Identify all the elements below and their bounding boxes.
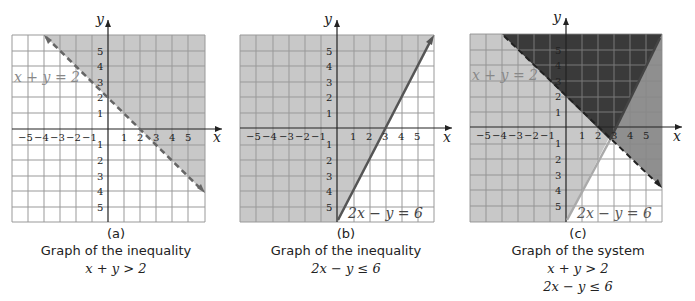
- svg-text:4: 4: [398, 131, 404, 142]
- svg-text:2: 2: [326, 92, 332, 103]
- svg-text:−3: −3: [508, 130, 523, 141]
- line-label: x + y = 2: [14, 69, 80, 85]
- caption-title: Graph of the inequality: [0, 243, 232, 258]
- svg-text:−4: −4: [262, 131, 277, 142]
- svg-text:5: 5: [326, 202, 332, 213]
- svg-text:−1: −1: [82, 132, 97, 143]
- svg-text:5: 5: [97, 46, 103, 57]
- caption-equation-2: 2x − y ≤ 6: [462, 279, 694, 294]
- svg-text:5: 5: [643, 130, 649, 141]
- y-axis-label: y: [552, 9, 562, 25]
- graph-c: −5−4−3−2−1 12345 54321 12345 x y x + y =…: [462, 0, 695, 226]
- svg-text:−4: −4: [34, 132, 49, 143]
- svg-text:5: 5: [555, 45, 561, 56]
- panel-b: −5−4−3−2−1 12345 54321 12345 x y 2x − y …: [230, 0, 462, 301]
- svg-text:5: 5: [555, 201, 561, 212]
- svg-text:−3: −3: [279, 131, 294, 142]
- y-arrow-icon: [563, 18, 569, 25]
- panel-a: −5−4−3−2−1 12345 54321 12345 x y x + y =…: [0, 0, 232, 301]
- svg-text:−4: −4: [492, 130, 507, 141]
- svg-text:2: 2: [326, 155, 332, 166]
- svg-text:−1: −1: [311, 131, 326, 142]
- caption-equation-1: x + y > 2: [462, 261, 694, 276]
- svg-text:3: 3: [97, 171, 103, 182]
- svg-text:4: 4: [555, 185, 561, 196]
- svg-text:4: 4: [97, 186, 103, 197]
- graph-a: −5−4−3−2−1 12345 54321 12345 x y x + y =…: [0, 0, 232, 226]
- caption-title: Graph of the system: [462, 243, 694, 258]
- y-arrow-icon: [334, 20, 340, 27]
- svg-text:−3: −3: [50, 132, 65, 143]
- svg-text:5: 5: [97, 202, 103, 213]
- svg-text:−5: −5: [476, 130, 491, 141]
- svg-text:−5: −5: [18, 132, 33, 143]
- graph-b: −5−4−3−2−1 12345 54321 12345 x y 2x − y …: [230, 0, 462, 226]
- y-axis-label: y: [323, 11, 333, 27]
- svg-text:1: 1: [555, 107, 561, 118]
- panel-c: −5−4−3−2−1 12345 54321 12345 x y x + y =…: [462, 0, 694, 301]
- svg-text:4: 4: [326, 186, 332, 197]
- svg-text:3: 3: [555, 76, 561, 87]
- svg-text:3: 3: [382, 131, 388, 142]
- caption-letter: (c): [462, 226, 694, 241]
- line-label-1: x + y = 2: [472, 67, 538, 83]
- svg-text:3: 3: [153, 132, 159, 143]
- svg-text:3: 3: [611, 130, 617, 141]
- svg-text:1: 1: [326, 108, 332, 119]
- svg-text:5: 5: [414, 131, 420, 142]
- svg-text:−2: −2: [66, 132, 81, 143]
- caption-title: Graph of the inequality: [230, 243, 462, 258]
- line-label: 2x − y = 6: [347, 205, 423, 221]
- x-axis-label: x: [443, 129, 451, 145]
- svg-text:−2: −2: [524, 130, 539, 141]
- svg-text:4: 4: [97, 61, 103, 72]
- svg-text:−1: −1: [540, 130, 555, 141]
- svg-text:2: 2: [97, 92, 103, 103]
- svg-text:2: 2: [555, 91, 561, 102]
- svg-text:2: 2: [97, 155, 103, 166]
- svg-text:3: 3: [555, 170, 561, 181]
- y-arrow-icon: [105, 20, 111, 27]
- svg-text:3: 3: [326, 77, 332, 88]
- svg-text:1: 1: [350, 131, 356, 142]
- svg-text:−2: −2: [295, 131, 310, 142]
- caption-equation: 2x − y ≤ 6: [230, 261, 462, 276]
- x-axis-label: x: [213, 129, 221, 145]
- caption-equation: x + y > 2: [0, 261, 232, 276]
- svg-text:4: 4: [326, 61, 332, 72]
- svg-text:5: 5: [326, 46, 332, 57]
- caption-letter: (b): [230, 226, 462, 241]
- svg-text:2: 2: [366, 131, 372, 142]
- svg-text:2: 2: [137, 132, 143, 143]
- y-axis-label: y: [95, 11, 105, 27]
- x-axis-label: x: [673, 128, 681, 144]
- svg-text:1: 1: [97, 139, 103, 150]
- svg-text:3: 3: [97, 77, 103, 88]
- svg-text:2: 2: [595, 130, 601, 141]
- caption-letter: (a): [0, 226, 232, 241]
- svg-text:4: 4: [169, 132, 175, 143]
- svg-text:4: 4: [555, 60, 561, 71]
- svg-text:5: 5: [185, 132, 191, 143]
- svg-text:4: 4: [627, 130, 633, 141]
- svg-text:2: 2: [555, 154, 561, 165]
- svg-text:1: 1: [555, 138, 561, 149]
- svg-text:1: 1: [121, 132, 127, 143]
- svg-text:−5: −5: [246, 131, 261, 142]
- svg-text:3: 3: [326, 171, 332, 182]
- line-label-2: 2x − y = 6: [576, 205, 652, 221]
- svg-text:1: 1: [97, 108, 103, 119]
- svg-text:1: 1: [326, 139, 332, 150]
- svg-text:1: 1: [579, 130, 585, 141]
